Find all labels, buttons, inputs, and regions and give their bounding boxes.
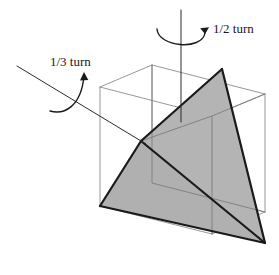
figure-canvas: 1/2 turn 1/3 turn	[0, 0, 279, 275]
third-turn-arrowhead	[80, 72, 88, 81]
rotation-arrows	[50, 27, 210, 112]
half-turn-arrowhead	[200, 27, 209, 34]
third-turn-label: 1/3 turn	[50, 54, 91, 69]
cube-tetrahedron-diagram: 1/2 turn 1/3 turn	[0, 0, 279, 275]
cube-edge-connect-top-left	[100, 65, 152, 87]
third-turn-arrow	[50, 76, 84, 112]
tetrahedron-faces	[100, 69, 265, 243]
half-turn-label: 1/2 turn	[213, 21, 254, 36]
rotation-axes	[17, 10, 181, 144]
